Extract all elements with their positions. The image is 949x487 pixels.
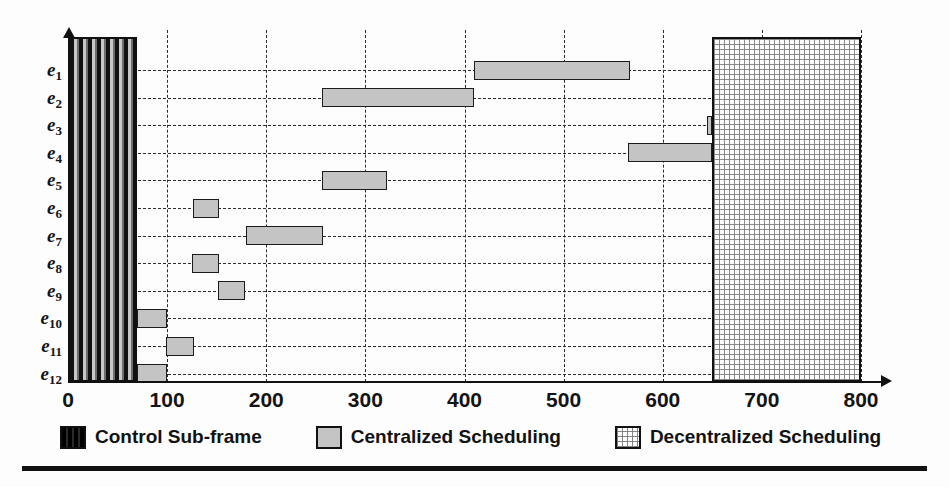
bar-e4 [628,143,712,162]
legend-swatch-control-icon [60,426,86,449]
legend-item-central: Centralized Scheduling [316,426,561,449]
vertical-gridline [663,30,664,382]
vertical-gridline [266,30,267,382]
x-tick-label-700: 700 [744,388,779,412]
vertical-gridline [167,30,168,382]
bar-e8 [192,254,219,273]
y-label-e4: e4 [47,142,62,164]
x-axis-line [68,381,883,383]
bar-e7 [246,226,322,245]
legend: Control Sub-frameCentralized SchedulingD… [60,420,920,454]
legend-label-decentral: Decentralized Scheduling [650,426,881,448]
y-label-e3: e3 [47,114,62,136]
y-axis-line [68,37,70,383]
decentralized-scheduling-region [712,37,861,382]
y-label-e9: e9 [47,280,62,302]
legend-label-central: Centralized Scheduling [351,426,561,448]
x-tick-label-800: 800 [843,388,878,412]
vertical-gridline [564,30,565,382]
y-label-e10: e10 [41,307,62,329]
legend-swatch-decentral-icon [615,426,641,449]
vertical-gridline [465,30,466,382]
y-axis-arrow-icon [63,27,75,38]
legend-label-control: Control Sub-frame [95,426,262,448]
y-label-e7: e7 [47,225,62,247]
control-sub-frame-region [68,37,137,382]
bar-e5 [322,171,387,190]
plot-area [68,30,861,382]
bar-e1 [474,61,630,80]
bar-e2 [322,88,475,107]
gantt-chart-figure: 0100200300400500600700800 e1e2e3e4e5e6e7… [0,0,949,487]
x-tick-label-100: 100 [150,388,185,412]
y-axis-category-labels: e1e2e3e4e5e6e7e8e9e10e11e12 [0,30,62,382]
y-label-e2: e2 [47,87,62,109]
legend-swatch-central-icon [316,426,342,449]
vertical-gridline [365,30,366,382]
x-tick-label-300: 300 [348,388,383,412]
legend-item-decentral: Decentralized Scheduling [615,426,881,449]
legend-item-control: Control Sub-frame [60,426,262,449]
bar-e10 [137,309,167,328]
x-tick-label-0: 0 [62,388,74,412]
y-label-e8: e8 [47,252,62,274]
bar-e3 [707,116,712,135]
y-label-e1: e1 [47,59,62,81]
x-tick-label-200: 200 [249,388,284,412]
x-tick-label-500: 500 [546,388,581,412]
bottom-horizontal-rule [22,466,927,471]
x-tick-label-400: 400 [447,388,482,412]
bar-e11 [166,337,194,356]
vertical-gridline [861,30,862,382]
bar-e6 [193,199,219,218]
y-label-e5: e5 [47,169,62,191]
y-label-e12: e12 [41,363,62,385]
bar-e9 [218,281,246,300]
x-axis-arrow-icon [881,375,892,387]
y-label-e6: e6 [47,197,62,219]
y-label-e11: e11 [41,335,62,357]
x-tick-label-600: 600 [645,388,680,412]
